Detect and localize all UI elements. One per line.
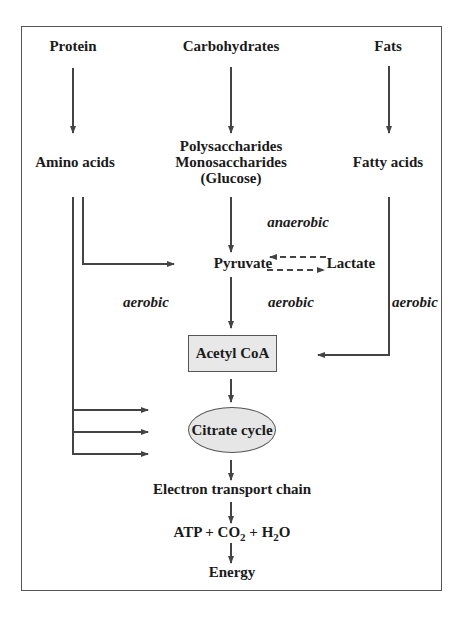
node-electron-transport-chain: Electron transport chain (153, 481, 311, 498)
node-protein: Protein (49, 38, 96, 55)
node-products: ATP + CO2 + H2O (174, 524, 291, 546)
node-glucose: (Glucose) (201, 170, 262, 187)
node-acetyl-coa: Acetyl CoA (188, 335, 277, 372)
label-anaerobic: anaerobic (267, 214, 329, 231)
node-carbohydrates: Carbohydrates (183, 38, 280, 55)
node-amino-acids: Amino acids (35, 154, 115, 171)
label-aerobic-right: aerobic (392, 294, 438, 311)
node-monosaccharides: Monosaccharides (175, 154, 287, 171)
node-pyruvate: Pyruvate (214, 255, 272, 272)
node-lactate: Lactate (327, 255, 375, 272)
label-aerobic-left: aerobic (123, 294, 169, 311)
node-fatty-acids: Fatty acids (353, 154, 423, 171)
node-polysaccharides: Polysaccharides (180, 138, 283, 155)
node-fats: Fats (374, 38, 402, 55)
label-aerobic-center: aerobic (268, 294, 314, 311)
node-energy: Energy (209, 564, 256, 581)
node-citrate-cycle: Citrate cycle (188, 407, 276, 453)
